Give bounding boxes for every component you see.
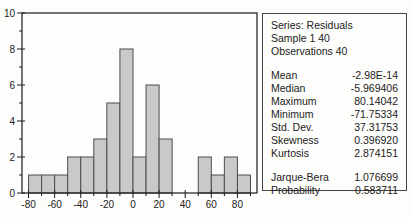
stat-row-mean: Mean -2.98E-14 — [271, 69, 398, 82]
histogram-bar — [224, 157, 237, 193]
x-tick-label: -60 — [47, 199, 62, 210]
stat-label: Maximum — [271, 95, 317, 108]
x-tick-label: -80 — [21, 199, 36, 210]
stat-row-jarque-bera: Jarque-Bera 1.076699 — [271, 171, 398, 184]
stat-label: Mean — [271, 69, 297, 82]
stat-value: -71.75334 — [351, 108, 398, 121]
sample-label: Sample 1 40 — [271, 32, 398, 45]
x-tick-label: 20 — [154, 199, 166, 210]
histogram-bar — [159, 139, 172, 193]
residuals-histogram-chart: 0246810-80-60-40-20020406080 — [0, 0, 262, 217]
stat-value: 1.076699 — [354, 171, 398, 184]
y-tick-label: 10 — [4, 8, 16, 19]
stat-label: Skewness — [271, 134, 319, 147]
histogram-bar — [133, 157, 146, 193]
x-tick-label: -40 — [74, 199, 89, 210]
y-tick-label: 6 — [9, 80, 15, 91]
stat-value: 2.874151 — [354, 147, 398, 160]
histogram-bar — [55, 175, 68, 193]
stat-label: Kurtosis — [271, 147, 309, 160]
histogram-bar — [29, 175, 42, 193]
residuals-histogram-panel: 0246810-80-60-40-20020406080 Series: Res… — [0, 0, 411, 217]
y-tick-label: 0 — [9, 188, 15, 199]
stats-header: Series: Residuals Sample 1 40 Observatio… — [271, 19, 398, 58]
x-tick-label: 40 — [180, 199, 192, 210]
stat-value: -2.98E-14 — [352, 69, 398, 82]
stat-row-median: Median -5.969406 — [271, 82, 398, 95]
stat-row-kurtosis: Kurtosis 2.874151 — [271, 147, 398, 160]
stat-row-std-dev: Std. Dev. 37.31753 — [271, 121, 398, 134]
y-tick-label: 2 — [9, 152, 15, 163]
stat-row-skewness: Skewness 0.396920 — [271, 134, 398, 147]
stat-value: -5.969406 — [351, 82, 398, 95]
observations-label: Observations 40 — [271, 45, 398, 58]
y-tick-label: 4 — [9, 116, 15, 127]
stats-box: Series: Residuals Sample 1 40 Observatio… — [262, 13, 407, 191]
x-tick-label: -20 — [100, 199, 115, 210]
histogram-bar — [120, 49, 133, 193]
stat-label: Std. Dev. — [271, 121, 313, 134]
y-tick-label: 8 — [9, 44, 15, 55]
stats-spacer — [271, 160, 398, 171]
x-tick-label: 60 — [206, 199, 218, 210]
histogram-bar — [211, 175, 224, 193]
series-label: Series: Residuals — [271, 19, 398, 32]
histogram-bar — [198, 157, 211, 193]
stat-value: 80.14042 — [354, 95, 398, 108]
histogram-bar — [81, 157, 94, 193]
stat-label: Probability — [271, 184, 320, 197]
histogram-bar — [237, 175, 250, 193]
stat-label: Median — [271, 82, 305, 95]
stat-value: 37.31753 — [354, 121, 398, 134]
histogram-bar — [94, 139, 107, 193]
stat-row-probability: Probability 0.583711 — [271, 184, 398, 197]
x-tick-label: 80 — [232, 199, 244, 210]
stat-value: 0.583711 — [355, 184, 398, 197]
stat-label: Jarque-Bera — [271, 171, 329, 184]
stat-value: 0.396920 — [354, 134, 398, 147]
histogram-bar — [107, 103, 120, 193]
stat-row-minimum: Minimum -71.75334 — [271, 108, 398, 121]
histogram-bar — [68, 157, 81, 193]
histogram-bar — [42, 175, 55, 193]
stats-spacer — [271, 58, 398, 69]
stat-label: Minimum — [271, 108, 314, 121]
stat-row-maximum: Maximum 80.14042 — [271, 95, 398, 108]
x-tick-label: 0 — [130, 199, 136, 210]
histogram-bar — [146, 85, 159, 193]
